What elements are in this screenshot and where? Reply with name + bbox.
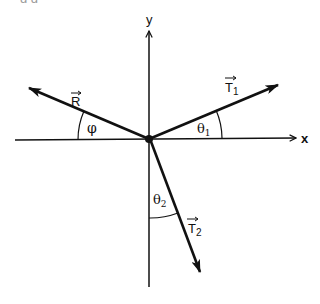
phi-label: φ: [87, 120, 97, 136]
force-diagram: x y R T1 T2 φ θ1 θ2: [0, 0, 320, 304]
origin-point: [145, 135, 153, 143]
x-axis-label: x: [301, 131, 309, 146]
vector-T1: T1: [149, 76, 278, 139]
y-axis-label: y: [146, 12, 153, 27]
R-label: R: [71, 94, 80, 109]
T2-label: T2: [188, 221, 202, 238]
theta2-label: θ2: [153, 192, 167, 209]
theta1-label: θ1: [197, 121, 211, 138]
y-axis: y: [146, 12, 153, 287]
T1-label: T1: [225, 80, 239, 97]
